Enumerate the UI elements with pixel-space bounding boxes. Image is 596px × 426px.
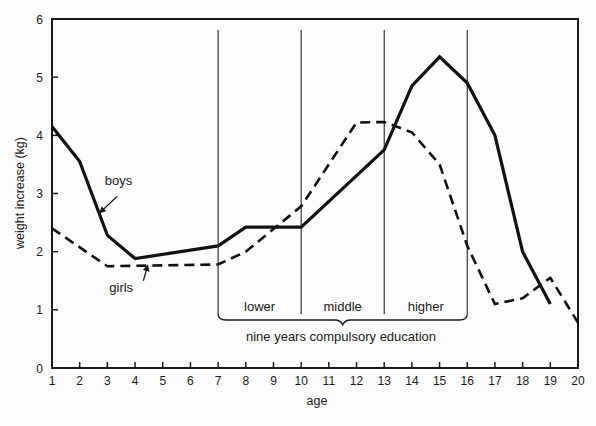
y-tick-label: 6 [36, 13, 43, 27]
y-tick-label: 1 [36, 303, 43, 317]
y-tick-label: 4 [36, 129, 43, 143]
x-tick-label: 4 [132, 374, 139, 388]
arrow-icon [143, 266, 147, 281]
x-tick-label: 5 [159, 374, 166, 388]
x-axis-title: age [307, 394, 328, 408]
line-chart: 0123456 1234567891011121314151617181920 … [0, 0, 596, 426]
y-axis-title: weight increase (kg) [13, 137, 27, 250]
chart: 0123456 1234567891011121314151617181920 … [0, 0, 596, 426]
school-stage-label-higher: higher [408, 299, 445, 314]
school-stage-label-middle: middle [324, 299, 362, 314]
x-tick-label: 11 [323, 374, 336, 388]
x-axis: 1234567891011121314151617181920 [49, 362, 585, 388]
plot-border [52, 19, 578, 368]
y-tick-label: 0 [36, 362, 43, 376]
x-tick-label: 13 [378, 374, 392, 388]
x-tick-label: 9 [270, 374, 277, 388]
x-tick-label: 12 [350, 374, 364, 388]
x-tick-label: 2 [76, 374, 83, 388]
x-tick-label: 7 [215, 374, 222, 388]
annotations: boysgirlslowermiddlehigher [100, 173, 467, 325]
plot-frame [52, 19, 578, 368]
x-tick-label: 3 [104, 374, 111, 388]
x-tick-label: 1 [49, 374, 56, 388]
y-axis: 0123456 [36, 13, 58, 376]
x-tick-label: 18 [516, 374, 530, 388]
school-division-lines [218, 30, 467, 314]
y-tick-label: 2 [36, 245, 43, 259]
arrow-icon [100, 196, 117, 212]
y-tick-label: 5 [36, 71, 43, 85]
series-label-boys: boys [105, 173, 133, 188]
curly-brace [218, 314, 467, 325]
x-tick-label: 10 [294, 374, 308, 388]
series-label-girls: girls [109, 280, 133, 295]
x-tick-label: 19 [544, 374, 558, 388]
brace-label: nine years compulsory education [246, 329, 436, 344]
x-tick-label: 16 [461, 374, 475, 388]
x-tick-label: 20 [571, 374, 585, 388]
x-tick-label: 8 [242, 374, 249, 388]
y-tick-label: 3 [36, 187, 43, 201]
x-tick-label: 15 [433, 374, 447, 388]
x-tick-label: 17 [488, 374, 502, 388]
x-tick-label: 14 [405, 374, 419, 388]
school-stage-label-lower: lower [244, 299, 276, 314]
x-tick-label: 6 [187, 374, 194, 388]
